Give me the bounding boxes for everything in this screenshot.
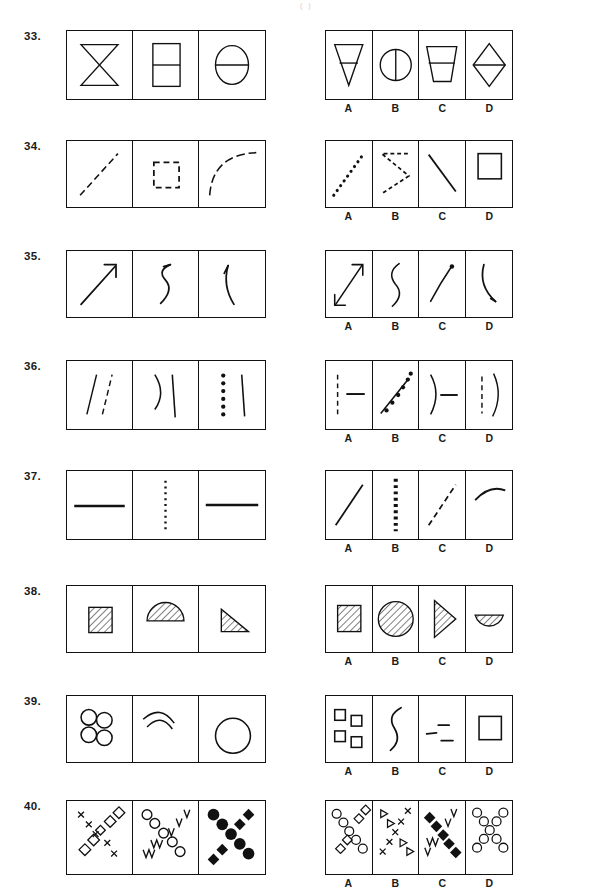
option-label-c: C: [419, 655, 466, 667]
option-label-d: D: [466, 432, 513, 444]
option-labels-36: A B C D: [325, 432, 513, 444]
option-label-d: D: [466, 210, 513, 222]
option-cell-c[interactable]: [419, 251, 466, 317]
option-label-c: C: [419, 765, 466, 777]
option-label-c: C: [419, 210, 466, 222]
stem-cell-four-circles-cluster: [67, 696, 133, 762]
option-cell-c[interactable]: [419, 696, 466, 762]
option-cell-a[interactable]: [326, 696, 373, 762]
option-cell-c[interactable]: [419, 471, 466, 539]
option-cell-d[interactable]: [466, 586, 512, 652]
stem-cell-single-large-circle: [199, 696, 265, 762]
option-label-b: B: [372, 210, 419, 222]
option-cell-b[interactable]: [373, 801, 420, 874]
stem-cell-solid-and-dashed-line: [67, 361, 133, 429]
option-label-c: C: [419, 432, 466, 444]
option-label-a: A: [325, 877, 372, 889]
option-label-d: D: [466, 542, 513, 554]
option-label-c: C: [419, 877, 466, 889]
stem-cell-circle-split-horizontal: [199, 31, 265, 99]
option-cell-d[interactable]: [466, 31, 512, 99]
option-group-39: [325, 695, 513, 763]
stem-group-37: [66, 470, 266, 540]
stem-cell-solid-horizontal-line-2: [199, 471, 265, 539]
option-label-a: A: [325, 765, 372, 777]
option-label-a: A: [325, 102, 372, 114]
option-cell-a[interactable]: [326, 361, 373, 429]
option-labels-34: A B C D: [325, 210, 513, 222]
option-group-34: [325, 140, 513, 208]
page-top-mark: ( ): [300, 2, 313, 9]
stem-cell-solid-horizontal-line: [67, 471, 133, 539]
option-cell-d[interactable]: [466, 141, 512, 207]
stem-cell-squiggle-arrow: [133, 251, 199, 317]
option-group-33: [325, 30, 513, 100]
option-group-40: [325, 800, 513, 875]
stem-cell-rectangle-split-horizontal: [133, 31, 199, 99]
option-labels-35: A B C D: [325, 320, 513, 332]
option-label-c: C: [419, 542, 466, 554]
stem-cell-dashed-diagonal-line: [67, 141, 133, 207]
option-label-b: B: [372, 765, 419, 777]
option-label-d: D: [466, 655, 513, 667]
stem-cell-bowtie-hourglass: [67, 31, 133, 99]
option-cell-c[interactable]: [419, 31, 466, 99]
option-cell-b[interactable]: [373, 31, 420, 99]
option-cell-d[interactable]: [466, 696, 512, 762]
stem-group-35: [66, 250, 266, 318]
option-cell-d[interactable]: [466, 471, 512, 539]
stem-cell-x-crosses-and-diamonds: [67, 801, 133, 874]
stem-cell-dashed-square: [133, 141, 199, 207]
option-label-b: B: [372, 320, 419, 332]
option-label-b: B: [372, 102, 419, 114]
option-cell-c[interactable]: [419, 141, 466, 207]
option-cell-a[interactable]: [326, 801, 373, 874]
option-cell-a[interactable]: [326, 141, 373, 207]
option-cell-d[interactable]: [466, 251, 512, 317]
stem-group-36: [66, 360, 266, 430]
option-label-a: A: [325, 432, 372, 444]
option-label-d: D: [466, 320, 513, 332]
option-group-38: [325, 585, 513, 653]
option-label-c: C: [419, 320, 466, 332]
option-cell-a[interactable]: [326, 586, 373, 652]
option-cell-b[interactable]: [373, 251, 420, 317]
question-number: 33.: [24, 30, 41, 42]
stem-cell-hatched-square-small: [67, 586, 133, 652]
option-cell-a[interactable]: [326, 471, 373, 539]
stem-cell-nested-arcs: [133, 696, 199, 762]
option-cell-c[interactable]: [419, 361, 466, 429]
option-group-37: [325, 470, 513, 540]
stem-cell-dotted-vertical-line: [133, 471, 199, 539]
option-label-c: C: [419, 102, 466, 114]
option-cell-c[interactable]: [419, 801, 466, 874]
option-cell-b[interactable]: [373, 361, 420, 429]
option-cell-a[interactable]: [326, 251, 373, 317]
option-cell-b[interactable]: [373, 696, 420, 762]
stem-cell-hatched-semicircle: [133, 586, 199, 652]
question-number: 39.: [24, 695, 41, 707]
option-cell-a[interactable]: [326, 31, 373, 99]
stem-group-33: [66, 30, 266, 100]
question-number: 37.: [24, 470, 41, 482]
option-labels-40: A B C D: [325, 877, 513, 889]
stem-cell-dashed-arc: [199, 141, 265, 207]
option-cell-c[interactable]: [419, 586, 466, 652]
stem-cell-arc-and-solid-line: [133, 361, 199, 429]
option-labels-33: A B C D: [325, 102, 513, 114]
question-number: 38.: [24, 585, 41, 597]
option-cell-d[interactable]: [466, 361, 512, 429]
stem-cell-x-circles-and-zigzags: [133, 801, 199, 874]
option-cell-b[interactable]: [373, 141, 420, 207]
option-label-a: A: [325, 210, 372, 222]
option-cell-b[interactable]: [373, 471, 420, 539]
option-cell-b[interactable]: [373, 586, 420, 652]
option-label-d: D: [466, 765, 513, 777]
option-label-d: D: [466, 877, 513, 889]
option-label-a: A: [325, 655, 372, 667]
option-group-35: [325, 250, 513, 318]
stem-cell-curved-arrow-up: [199, 251, 265, 317]
option-cell-d[interactable]: [466, 801, 512, 874]
question-number: 36.: [24, 360, 41, 372]
stem-cell-arrow-up-right: [67, 251, 133, 317]
